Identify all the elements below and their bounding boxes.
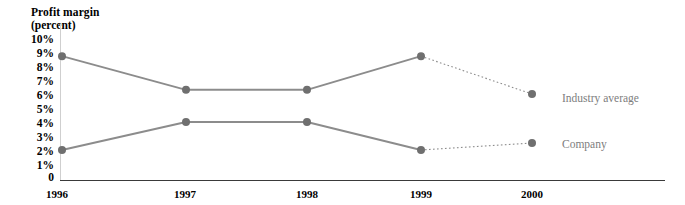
data-point-marker	[58, 146, 66, 154]
x-tick-2000: 2000	[502, 188, 562, 200]
data-point-marker	[303, 118, 311, 126]
data-point-marker	[182, 86, 190, 94]
x-tick-1998: 1998	[277, 188, 337, 200]
x-tick-1997: 1997	[155, 188, 215, 200]
x-tick-1996: 1996	[27, 188, 87, 200]
series-segment	[62, 122, 186, 150]
series-company	[58, 118, 536, 154]
data-point-marker	[417, 146, 425, 154]
series-segment	[421, 56, 532, 94]
series-segment	[307, 56, 421, 90]
data-point-marker	[58, 52, 66, 60]
chart-figure: Profit margin (percent) 10% 9% 8% 7% 6% …	[0, 0, 685, 205]
data-point-marker	[303, 86, 311, 94]
series-segment	[62, 56, 186, 90]
data-point-marker	[182, 118, 190, 126]
data-point-marker	[528, 139, 536, 147]
x-tick-1999: 1999	[391, 188, 451, 200]
series-segment	[421, 143, 532, 150]
series-label-company: Company	[562, 138, 607, 150]
series-segment	[307, 122, 421, 150]
series-industry-average	[58, 52, 536, 98]
data-point-marker	[417, 52, 425, 60]
series-label-industry-average: Industry average	[562, 92, 639, 104]
data-point-marker	[528, 90, 536, 98]
